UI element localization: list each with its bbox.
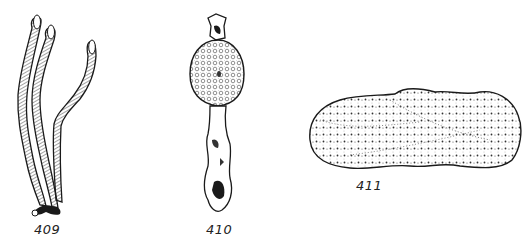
specimen-409-drawing — [0, 0, 130, 246]
specimen-label-410: 410 — [206, 222, 232, 237]
stem — [204, 106, 231, 211]
stalk-base — [32, 205, 61, 216]
specimen-411-drawing — [290, 70, 532, 230]
stalk-3 — [53, 40, 96, 202]
apical-tip — [208, 14, 226, 40]
warty-head — [190, 40, 244, 106]
specimen-410-drawing — [170, 0, 270, 246]
lumpy-body — [310, 89, 521, 169]
specimen-label-411: 411 — [356, 178, 382, 193]
specimen-label-409: 409 — [34, 222, 60, 237]
